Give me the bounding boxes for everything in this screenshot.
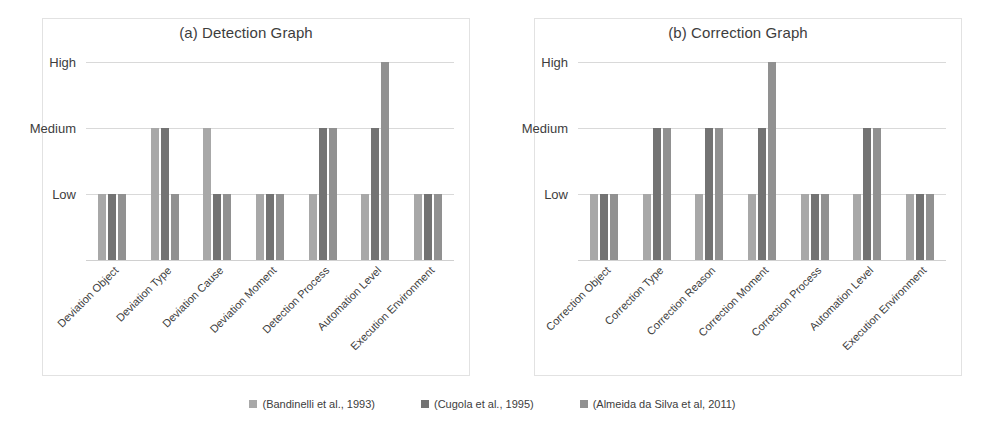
y-tick-label-low: Low [52,187,76,202]
x-axis-label-cell: Deviation Object [86,262,139,382]
y-tick-label-high: High [49,55,76,70]
bar [916,194,924,260]
bar [203,128,211,260]
x-axis-label-cell: Execution Environment [893,262,946,382]
bar [926,194,934,260]
bar [108,194,116,260]
axis-baseline [578,260,946,261]
bar-group [893,62,946,260]
bar [653,128,661,260]
bar-group [86,62,139,260]
bar-group [736,62,789,260]
bar [906,194,914,260]
bar [414,194,422,260]
figure-root: (a) Detection Graph LowMediumHigh Deviat… [0,0,985,430]
bar [171,194,179,260]
chart-title-a: (a) Detection Graph [0,24,492,41]
bar [853,194,861,260]
x-axis-labels-b: Correction ObjectCorrection TypeCorrecti… [578,262,946,382]
bar [161,128,169,260]
bar [600,194,608,260]
chart-panel-detection: (a) Detection Graph LowMediumHigh Deviat… [0,0,492,388]
bar [715,128,723,260]
legend-item: (Cugola et al., 1995) [421,398,534,410]
bar [309,194,317,260]
legend-label: (Cugola et al., 1995) [434,398,534,410]
bar-group [788,62,841,260]
legend-item: (Bandinelli et al., 1993) [249,398,375,410]
y-tick-label-medium: Medium [30,121,76,136]
bar [705,128,713,260]
legend-label: (Bandinelli et al., 1993) [262,398,375,410]
bar [276,194,284,260]
x-axis-label-cell: Execution Environment [401,262,454,382]
chart-legend: (Bandinelli et al., 1993)(Cugola et al.,… [0,392,985,416]
chart-panel-correction: (b) Correction Graph LowMediumHigh Corre… [492,0,984,388]
bar [768,62,776,260]
chart-title-b: (b) Correction Graph [492,24,984,41]
bar-group [401,62,454,260]
bar [863,128,871,260]
bar [118,194,126,260]
bar [329,128,337,260]
bars-layer-b [578,62,946,260]
bar [811,194,819,260]
bar [643,194,651,260]
bar-group [683,62,736,260]
bar [748,194,756,260]
bar [256,194,264,260]
legend-label: (Almeida da Silva et al, 2011) [593,398,736,410]
bar [424,194,432,260]
bar [371,128,379,260]
bar [361,194,369,260]
legend-item: (Almeida da Silva et al, 2011) [580,398,736,410]
y-tick-label-high: High [541,55,568,70]
charts-row: (a) Detection Graph LowMediumHigh Deviat… [0,0,985,388]
plot-area-b: LowMediumHigh [578,62,946,260]
bar-group [191,62,244,260]
bar [801,194,809,260]
bar [319,128,327,260]
bar [758,128,766,260]
bar [695,194,703,260]
bar [266,194,274,260]
x-axis-labels-a: Deviation ObjectDeviation TypeDeviation … [86,262,454,382]
bar [223,194,231,260]
bar [98,194,106,260]
bars-layer-a [86,62,454,260]
y-tick-label-medium: Medium [522,121,568,136]
bar [590,194,598,260]
legend-swatch-icon [249,400,257,408]
bar [821,194,829,260]
bar-group [296,62,349,260]
bar-group [349,62,402,260]
plot-area-a: LowMediumHigh [86,62,454,260]
bar-group [139,62,192,260]
bar-group [578,62,631,260]
bar [151,128,159,260]
axis-baseline [86,260,454,261]
bar [663,128,671,260]
y-tick-label-low: Low [544,187,568,202]
bar-group [841,62,894,260]
legend-swatch-icon [421,400,429,408]
bar-group [631,62,684,260]
x-axis-label-cell: Correction Object [578,262,631,382]
bar-group [244,62,297,260]
bar [434,194,442,260]
bar [873,128,881,260]
bar [213,194,221,260]
legend-swatch-icon [580,400,588,408]
bar [610,194,618,260]
bar [381,62,389,260]
